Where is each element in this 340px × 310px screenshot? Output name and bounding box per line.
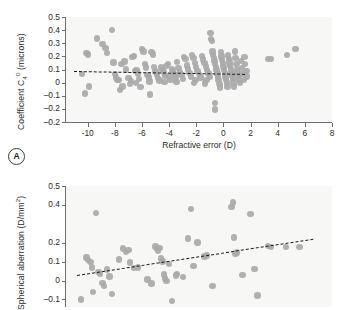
x-axis-tick [223,123,224,127]
x-axis-tick-label: 2 [237,128,265,138]
data-point [212,100,218,106]
y-axis-tick [62,17,66,18]
panel-a-plot-area [66,17,332,122]
data-point [292,46,298,52]
data-point [150,51,156,57]
y-axis-tick-label: 0 [30,77,60,87]
data-point [78,296,84,302]
y-axis-tick-label: 0.3 [30,38,60,48]
x-axis-tick [115,123,116,127]
data-point [121,58,127,64]
data-point [86,83,92,89]
data-point [284,52,290,58]
data-point [191,80,197,86]
x-axis-tick-label: -4 [155,128,183,138]
x-axis-tick [196,123,197,127]
y-axis-tick [62,83,66,84]
y-axis-tick-label: 0 [30,275,60,285]
data-point [202,80,208,86]
data-point [209,283,215,289]
panel-b-y-axis-label: Spherical aberration (D/mm2) [14,196,26,310]
data-point [217,84,223,90]
data-point [230,199,236,205]
data-point [106,273,112,279]
data-point [188,206,194,212]
y-axis-tick [62,205,66,206]
x-axis-tick [88,123,89,127]
data-point [173,79,179,85]
y-axis-tick-label: 0.1 [30,256,60,266]
panel-a-scatter-chart: Coefficient C40 (microns) 0.50.40.30.20.… [0,0,340,170]
data-point [212,106,218,112]
y-axis-tick [62,109,66,110]
data-point [163,278,169,284]
data-point [148,280,154,286]
panel-a-x-axis-label: Refractive error (D) [66,140,332,150]
y-axis-tick [62,262,66,263]
data-point [90,289,96,295]
data-point [194,239,200,245]
data-point [185,235,191,241]
x-axis-line [65,122,332,123]
y-axis-tick-label: 0.4 [30,199,60,209]
data-point [239,272,245,278]
data-point [146,78,152,84]
y-axis-tick-label: –0.1 [30,294,60,304]
y-axis-tick [62,43,66,44]
data-point [241,54,247,60]
data-point [283,244,289,250]
x-axis-tick-label: -10 [74,128,102,138]
y-axis-tick-label: 0.2 [30,51,60,61]
data-point [109,291,115,297]
panel-b-scatter-chart: Spherical aberration (D/mm2) 0.50.40.20.… [0,170,340,307]
panel-b-plot-area [66,186,332,307]
y-axis-tick [62,30,66,31]
x-axis-tick [278,123,279,127]
data-point [251,266,257,272]
y-axis-tick [62,186,66,187]
x-axis-tick-label: 8 [318,128,340,138]
data-point [110,59,116,65]
data-point [296,244,302,250]
data-point [89,264,95,270]
y-axis-tick-label: 0.5 [30,181,60,191]
y-axis-tick [62,96,66,97]
data-point [140,48,146,54]
x-axis-tick [332,123,333,127]
panel-a-tag: A [8,148,25,165]
data-point [116,256,122,262]
data-point [268,56,274,62]
data-point [147,91,153,97]
data-point [131,53,137,59]
y-axis-tick-label: 0.4 [30,25,60,35]
y-axis-tick [62,299,66,300]
data-point [101,283,107,289]
y-axis-tick-label: –0.1 [30,90,60,100]
x-axis-tick [169,123,170,127]
data-point [180,76,186,82]
data-point [93,210,99,216]
y-axis-tick-label: –0.2 [30,117,60,127]
data-point [156,245,162,251]
y-axis-tick-label: –0.2 [30,103,60,113]
data-point [242,61,248,67]
x-axis-tick [142,123,143,127]
data-point [231,234,237,240]
x-axis-tick [251,123,252,127]
data-point [127,259,133,265]
data-point [190,263,196,269]
data-point [133,80,139,86]
data-point [104,50,110,56]
x-axis-tick-label: 6 [291,128,319,138]
x-axis-tick [305,123,306,127]
data-point [125,247,131,253]
y-axis-tick-label: 0.2 [30,237,60,247]
data-point [109,27,115,33]
y-axis-tick [62,281,66,282]
x-axis-tick-label: 0 [209,128,237,138]
x-axis-tick-label: -6 [128,128,156,138]
x-axis-tick-label: 4 [264,128,292,138]
data-point [209,38,215,44]
y-axis-tick-label: 0.5 [30,12,60,22]
